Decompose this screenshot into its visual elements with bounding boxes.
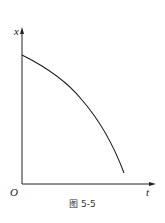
y-axis-label: x <box>14 26 19 37</box>
chart-canvas <box>0 0 165 223</box>
curve-x-of-t <box>22 55 124 173</box>
x-axis-arrow-icon <box>149 182 156 186</box>
y-axis-arrow-icon <box>20 27 24 34</box>
figure-caption: 图 5-5 <box>0 197 165 210</box>
